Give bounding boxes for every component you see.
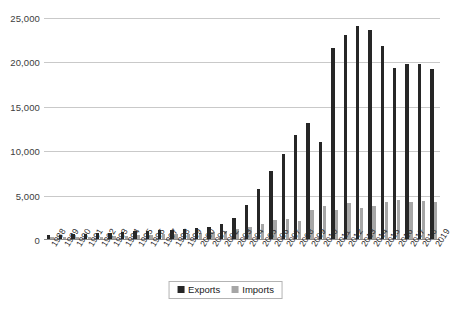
bar-group xyxy=(56,18,68,239)
x-tick-cell: 1993 xyxy=(106,242,118,284)
bar-group xyxy=(217,18,229,239)
y-axis-tick-label: 25,000 xyxy=(0,13,40,24)
x-tick-cell: 2017 xyxy=(403,242,415,284)
x-tick-cell: 2012 xyxy=(341,242,353,284)
x-tick-cell: 2003 xyxy=(230,242,242,284)
bar-exports xyxy=(430,69,433,239)
x-tick-cell: 1998 xyxy=(168,242,180,284)
bar-group xyxy=(69,18,81,239)
bar-group xyxy=(131,18,143,239)
bar-group xyxy=(81,18,93,239)
chart-legend: ExportsImports xyxy=(168,281,283,299)
bar-exports xyxy=(331,48,334,239)
bar-group xyxy=(403,18,415,239)
bar-exports xyxy=(344,35,347,239)
bar-exports xyxy=(306,123,309,239)
legend-item[interactable]: Imports xyxy=(231,285,274,295)
x-tick-cell: 1992 xyxy=(94,242,106,284)
bar-exports xyxy=(418,64,421,239)
bar-group xyxy=(230,18,242,239)
bar-exports xyxy=(381,46,384,239)
x-tick-cell: 2014 xyxy=(366,242,378,284)
y-axis-tick-label: 10,000 xyxy=(0,146,40,157)
bar-group xyxy=(292,18,304,239)
x-tick-cell: 2002 xyxy=(217,242,229,284)
bar-group xyxy=(143,18,155,239)
x-tick-cell: 2004 xyxy=(242,242,254,284)
bar-group xyxy=(168,18,180,239)
bar-group xyxy=(353,18,365,239)
bar-exports xyxy=(294,135,297,239)
bar-group xyxy=(242,18,254,239)
bar-group xyxy=(205,18,217,239)
bar-exports xyxy=(47,235,50,239)
x-tick-cell: 2013 xyxy=(353,242,365,284)
bar-group xyxy=(267,18,279,239)
bar-group xyxy=(106,18,118,239)
bar-exports xyxy=(393,68,396,239)
x-tick-cell: 2000 xyxy=(193,242,205,284)
bar-group xyxy=(341,18,353,239)
x-axis-tick-labels: 1988198919901991199219931994199519961997… xyxy=(44,242,440,284)
bar-group xyxy=(180,18,192,239)
x-tick-cell: 1991 xyxy=(81,242,93,284)
bar-group xyxy=(44,18,56,239)
y-axis-tick-label: 5,000 xyxy=(0,190,40,201)
bar-group xyxy=(415,18,427,239)
x-tick-cell: 1999 xyxy=(180,242,192,284)
y-axis-tick-label: 0 xyxy=(0,235,40,246)
bar-exports xyxy=(405,64,408,239)
x-tick-cell: 2016 xyxy=(391,242,403,284)
x-tick-cell: 1995 xyxy=(131,242,143,284)
bar-group xyxy=(279,18,291,239)
x-tick-cell: 1990 xyxy=(69,242,81,284)
bar-series-container xyxy=(44,18,440,239)
legend-label: Imports xyxy=(242,285,274,295)
bar-group xyxy=(366,18,378,239)
x-tick-cell: 2009 xyxy=(304,242,316,284)
x-tick-cell: 2005 xyxy=(254,242,266,284)
bar-group xyxy=(378,18,390,239)
x-tick-cell: 1996 xyxy=(143,242,155,284)
bar-exports xyxy=(368,30,371,239)
x-tick-cell: 1994 xyxy=(118,242,130,284)
x-tick-cell: 2001 xyxy=(205,242,217,284)
bar-exports xyxy=(319,142,322,239)
bar-group xyxy=(254,18,266,239)
x-tick-cell: 2006 xyxy=(267,242,279,284)
bar-group xyxy=(304,18,316,239)
y-axis-tick-label: 20,000 xyxy=(0,57,40,68)
legend-swatch-icon xyxy=(177,286,184,293)
x-tick-cell: 1997 xyxy=(155,242,167,284)
x-tick-cell: 2007 xyxy=(279,242,291,284)
legend-swatch-icon xyxy=(231,286,238,293)
legend-item[interactable]: Exports xyxy=(177,285,220,295)
bar-chart: 05,00010,00015,00020,00025,000 198819891… xyxy=(0,0,451,310)
bar-group xyxy=(193,18,205,239)
bar-group xyxy=(329,18,341,239)
bar-exports xyxy=(356,26,359,239)
y-axis-tick-label: 15,000 xyxy=(0,101,40,112)
x-tick-cell: 2010 xyxy=(316,242,328,284)
x-tick-cell: 2008 xyxy=(292,242,304,284)
legend-label: Exports xyxy=(188,285,220,295)
x-tick-cell: 2015 xyxy=(378,242,390,284)
x-tick-cell: 2018 xyxy=(415,242,427,284)
bar-group xyxy=(94,18,106,239)
bar-group xyxy=(155,18,167,239)
bar-group xyxy=(118,18,130,239)
plot-area xyxy=(44,18,440,240)
bar-group xyxy=(428,18,440,239)
x-tick-cell: 1989 xyxy=(56,242,68,284)
x-tick-cell: 1988 xyxy=(44,242,56,284)
x-tick-cell: 2019 xyxy=(428,242,440,284)
x-tick-cell: 2011 xyxy=(329,242,341,284)
bar-group xyxy=(316,18,328,239)
bar-group xyxy=(391,18,403,239)
